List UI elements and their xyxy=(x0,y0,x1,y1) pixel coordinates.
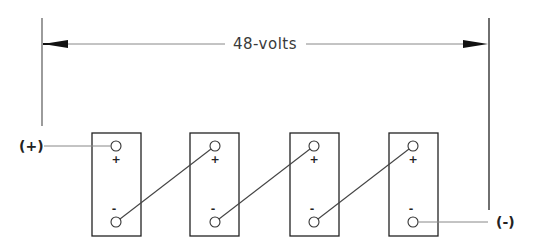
jumper-wire-3-4 xyxy=(318,149,409,219)
minus-sign: - xyxy=(211,202,216,215)
series-battery-diagram: 48-volts + - + - + - + - (+) (-) xyxy=(0,0,537,250)
plus-sign: + xyxy=(210,153,219,166)
minus-sign: - xyxy=(310,202,315,215)
battery-4: + - xyxy=(389,133,438,236)
plus-sign: + xyxy=(111,153,120,166)
positive-terminal-label: (+) xyxy=(19,138,44,154)
voltage-label: 48-volts xyxy=(233,35,297,53)
minus-sign: - xyxy=(409,202,414,215)
negative-terminal xyxy=(111,217,121,227)
battery-1: + - xyxy=(92,133,141,236)
battery-2: + - xyxy=(190,133,239,236)
negative-terminal xyxy=(309,217,319,227)
positive-terminal xyxy=(210,141,220,151)
jumper-wire-2-3 xyxy=(219,149,310,219)
positive-terminal xyxy=(309,141,319,151)
minus-sign: - xyxy=(112,202,117,215)
positive-terminal xyxy=(111,141,121,151)
positive-terminal xyxy=(408,141,418,151)
jumper-wire-1-2 xyxy=(120,149,211,219)
battery-3: + - xyxy=(290,133,339,236)
plus-sign: + xyxy=(408,153,417,166)
plus-sign: + xyxy=(309,153,318,166)
right-arrowhead-icon xyxy=(463,40,488,48)
negative-terminal-label: (-) xyxy=(496,214,515,230)
negative-terminal xyxy=(210,217,220,227)
negative-terminal xyxy=(408,217,418,227)
